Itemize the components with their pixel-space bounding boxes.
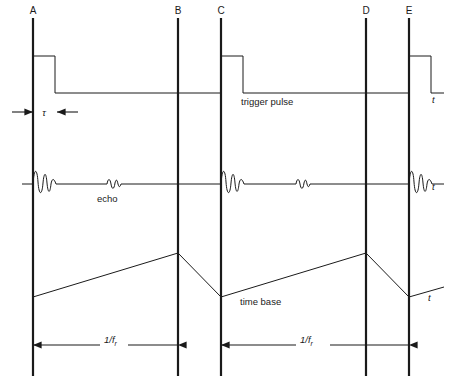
echo-burst-1 [107,180,121,189]
marker-label-c: C [217,5,224,16]
marker-label-e: E [406,5,413,16]
tau-dimension: τ [12,107,78,118]
echo-trace: echo t [22,171,444,204]
marker-label-d: D [362,5,369,16]
marker-label-a: A [30,5,37,16]
trigger-pulse-label: trigger pulse [241,96,293,107]
prf-dimension-2: 1/fr [221,334,409,347]
prf1-label-subscript: r [115,340,118,347]
prf1-label: 1/fr [104,334,118,347]
transmit-burst-a [33,171,56,192]
prf2-label-subscript: r [311,340,314,347]
time-base-waveform [33,253,444,297]
time-base-trace: time base t [33,253,444,307]
pulse-timing-diagram: A B C D E trigger pulse t echo [0,0,452,392]
marker-label-b: B [175,5,182,16]
prf2-label: 1/fr [300,334,314,347]
transmit-burst-e [409,171,432,192]
trigger-pulse-waveform [33,56,444,93]
tau-label: τ [42,107,47,118]
time-base-label: time base [240,296,281,307]
transmit-burst-c [221,171,244,192]
trigger-pulse-time-axis-label: t [432,94,435,105]
marker-labels-group: A B C D E [30,5,413,16]
trigger-pulse-trace: trigger pulse t [33,56,444,107]
echo-burst-2 [296,180,310,189]
time-base-time-axis-label: t [428,292,431,303]
echo-time-axis-label: t [432,181,435,192]
prf-dimension-1: 1/fr [33,334,178,347]
timing-diagram-svg: A B C D E trigger pulse t echo [0,0,452,392]
echo-label: echo [97,193,118,204]
